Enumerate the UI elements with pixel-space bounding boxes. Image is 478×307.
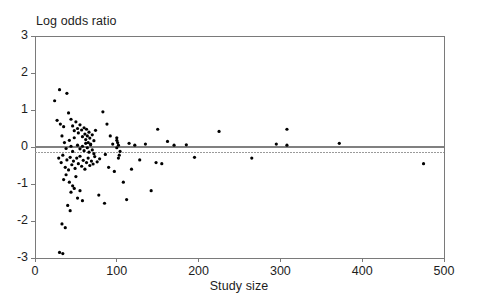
data-point	[91, 162, 94, 165]
scatter-plot-canvas	[0, 0, 478, 307]
data-point	[111, 142, 114, 145]
data-point	[64, 173, 67, 176]
data-point	[91, 148, 94, 151]
data-point	[69, 191, 72, 194]
data-point	[78, 189, 81, 192]
data-point	[82, 159, 85, 162]
data-point	[74, 175, 77, 178]
data-point	[80, 165, 83, 168]
data-point	[68, 181, 71, 184]
data-point	[77, 162, 80, 165]
data-point	[80, 128, 83, 131]
data-point	[89, 143, 92, 146]
data-point	[86, 146, 89, 149]
data-point	[103, 202, 106, 205]
data-point	[62, 125, 65, 128]
data-point	[65, 158, 68, 161]
data-point	[76, 127, 79, 130]
data-point	[422, 162, 425, 165]
data-point	[60, 161, 63, 164]
data-point	[117, 157, 120, 160]
data-point	[154, 161, 157, 164]
data-point	[71, 124, 74, 127]
data-point	[118, 154, 121, 157]
data-point	[53, 99, 56, 102]
data-point	[67, 168, 70, 171]
data-point	[73, 187, 76, 190]
data-point	[64, 226, 67, 229]
data-point	[78, 147, 81, 150]
data-point	[91, 133, 94, 136]
data-point	[57, 157, 60, 160]
data-point	[285, 144, 288, 147]
data-point	[81, 199, 84, 202]
data-point	[107, 166, 110, 169]
data-point	[109, 134, 112, 137]
data-point	[85, 161, 88, 164]
data-point	[105, 122, 108, 125]
data-point	[66, 204, 69, 207]
data-point	[55, 119, 58, 122]
data-point	[144, 142, 147, 145]
data-point	[113, 170, 116, 173]
data-point	[156, 128, 159, 131]
data-point	[92, 152, 95, 155]
data-point	[82, 149, 85, 152]
data-point	[60, 222, 63, 225]
data-point	[84, 142, 87, 145]
data-point	[72, 159, 75, 162]
data-point	[64, 147, 67, 150]
data-point	[75, 157, 78, 160]
data-point	[118, 150, 121, 153]
data-point	[68, 139, 71, 142]
data-point	[64, 166, 67, 169]
data-point	[127, 142, 130, 145]
data-point	[96, 160, 99, 163]
data-point	[69, 145, 72, 148]
data-point	[116, 141, 119, 144]
data-point	[150, 189, 153, 192]
data-point	[87, 157, 90, 160]
data-point	[193, 156, 196, 159]
data-point	[63, 141, 66, 144]
data-point	[90, 159, 93, 162]
data-point	[172, 144, 175, 147]
data-point	[87, 131, 90, 134]
data-point	[61, 154, 64, 157]
data-point	[84, 138, 87, 141]
data-point	[83, 168, 86, 171]
data-point	[73, 136, 76, 139]
data-point	[85, 128, 88, 131]
data-point	[125, 198, 128, 201]
data-point	[69, 118, 72, 121]
data-point	[122, 181, 125, 184]
data-point	[160, 162, 163, 165]
data-point	[73, 167, 76, 170]
data-point	[275, 142, 278, 145]
data-point	[94, 129, 97, 132]
data-point	[61, 252, 64, 255]
data-point	[86, 134, 89, 137]
data-point	[115, 136, 118, 139]
data-point	[60, 134, 63, 137]
data-point	[69, 156, 72, 159]
data-point	[81, 145, 84, 148]
data-point	[70, 163, 73, 166]
data-point	[115, 146, 118, 149]
data-point	[67, 111, 70, 114]
data-point	[71, 150, 74, 153]
data-point	[101, 110, 104, 113]
data-point	[87, 151, 90, 154]
data-point	[65, 92, 68, 95]
data-point	[97, 194, 100, 197]
data-point	[77, 131, 80, 134]
data-point	[98, 157, 101, 160]
data-point	[250, 157, 253, 160]
data-point	[104, 153, 107, 156]
data-point	[58, 88, 61, 91]
data-point	[133, 144, 136, 147]
data-point	[69, 209, 72, 212]
data-point	[76, 196, 79, 199]
data-point	[92, 139, 95, 142]
data-point	[138, 158, 141, 161]
